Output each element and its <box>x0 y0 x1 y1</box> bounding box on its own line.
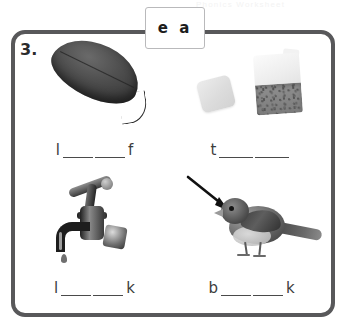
leaf-stem <box>118 90 149 124</box>
answer-last-letter: k <box>124 281 137 296</box>
grid-cell-leaf: l f <box>16 36 173 174</box>
tap-spout-highlight <box>59 232 62 250</box>
grid-cell-leak: l k <box>16 174 173 312</box>
tea-bags-photo-icon <box>187 42 327 134</box>
tea-illustration <box>173 38 330 136</box>
answer-blank[interactable] <box>61 282 91 296</box>
answer-last-letter: f <box>126 143 135 158</box>
faint-header-text: Phonics Worksheet <box>196 0 336 9</box>
bird-eye <box>229 206 234 211</box>
answer-line-leak[interactable]: l k <box>52 274 137 296</box>
water-drop-icon <box>61 254 67 263</box>
vowel-digraph-box: e a <box>145 7 205 49</box>
tap-illustration <box>16 176 173 274</box>
answer-first-letter: b <box>206 281 220 296</box>
bird-leg <box>258 241 261 254</box>
answer-blank[interactable] <box>219 144 253 158</box>
answer-last-letter: k <box>284 281 297 296</box>
answer-line-tea[interactable]: t <box>209 136 295 158</box>
answer-first-letter: l <box>52 281 60 296</box>
grid-cell-beak: b k <box>173 174 330 312</box>
grid-cell-tea: t <box>173 36 330 174</box>
answer-line-beak[interactable]: b k <box>206 274 296 296</box>
tea-leaves-fill <box>255 82 303 115</box>
answer-blank[interactable] <box>253 282 283 296</box>
answer-blank[interactable] <box>255 144 289 158</box>
tap-faucet-photo-icon <box>46 176 154 272</box>
picture-word-grid: l f t <box>16 36 330 311</box>
answer-blank[interactable] <box>63 144 93 158</box>
bird-illustration <box>173 176 330 274</box>
tea-bag-small <box>196 74 237 113</box>
tea-bag-large <box>253 52 303 117</box>
leaf-illustration <box>16 38 173 136</box>
answer-blank[interactable] <box>221 282 251 296</box>
bird-foot <box>237 254 250 256</box>
answer-first-letter: t <box>209 143 219 158</box>
tap-handle-knob <box>101 178 113 190</box>
answer-first-letter: l <box>54 143 62 158</box>
tap-wall-nut <box>102 224 127 249</box>
worksheet-page: Phonics Worksheet 3. e a l f <box>0 0 346 329</box>
leaf-photo-icon <box>44 40 154 132</box>
bird-beak-photo-icon <box>183 176 333 272</box>
answer-line-leaf[interactable]: l f <box>54 136 135 158</box>
vowel-digraph-label: e a <box>158 19 193 37</box>
bird-foot <box>253 255 266 257</box>
bird-beak <box>214 209 223 217</box>
answer-blank[interactable] <box>95 144 125 158</box>
bird-head <box>221 198 249 224</box>
answer-blank[interactable] <box>93 282 123 296</box>
